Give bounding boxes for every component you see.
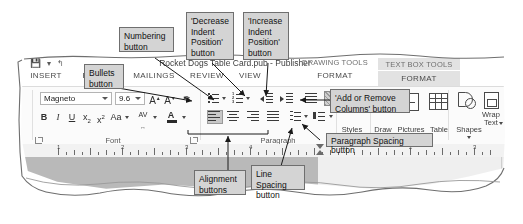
chevron-down-icon[interactable]: [467, 136, 471, 139]
numbering-icon[interactable]: 1 2 3: [232, 93, 243, 102]
alignment-buttons-callout: Alignment buttons: [194, 170, 246, 195]
increase-indent-position-button-callout: 'Increase Indent Position' button: [243, 12, 289, 60]
chevron-down-icon[interactable]: [125, 116, 129, 119]
chevron-down-icon[interactable]: [182, 116, 186, 119]
bullets-button-callout: Bullets button: [84, 64, 124, 89]
chevron-down-icon[interactable]: [222, 97, 226, 100]
numbering-button-callout: Numbering button: [119, 27, 174, 52]
paragraph-spacing-button-callout: Paragraph Spacing button: [326, 133, 433, 147]
chevron-down-icon[interactable]: [135, 97, 141, 100]
chevron-down-icon[interactable]: [329, 115, 333, 118]
tab-mailings[interactable]: MAILINGS: [128, 71, 180, 80]
decrease-indent-position-button-callout: 'Decrease Indent Position' button: [186, 12, 234, 60]
ruler-number: 1: [57, 144, 60, 150]
font-dialog-launcher[interactable]: [35, 137, 42, 144]
drawing-tools-group-label: DRAWING TOOLS: [296, 58, 374, 67]
wrap-text-icon[interactable]: [484, 92, 499, 109]
font-size-combo[interactable]: 9.6: [115, 92, 145, 105]
group-separator: [32, 90, 33, 140]
ruler-number: 3: [473, 144, 476, 150]
decrease-indent-icon[interactable]: [260, 93, 273, 103]
horizontal-ruler[interactable]: 1 2 3 4 1 2 3: [18, 144, 508, 158]
chevron-down-icon[interactable]: [499, 122, 503, 125]
character-spacing-icon[interactable]: AV↔: [136, 109, 150, 133]
chevron-down-icon[interactable]: [304, 115, 308, 118]
font-name-value: Magneto: [44, 94, 75, 103]
change-case-icon[interactable]: Aa: [110, 111, 122, 123]
align-left-icon[interactable]: [207, 110, 223, 124]
grow-font-icon[interactable]: A▲: [149, 92, 161, 107]
ribbon-body: Magneto 9.6 A▲ A▼ ✒ B I U x2 x2 Aa AV↔: [18, 86, 508, 146]
add-or-remove-columns-button-callout: 'Add or Remove Columns' button: [330, 89, 410, 113]
tab-text-box-tools-format[interactable]: FORMAT: [378, 71, 460, 86]
shrink-font-icon[interactable]: A▼: [164, 92, 176, 107]
save-icon[interactable]: 💾: [30, 58, 43, 68]
subscript-icon[interactable]: x2: [82, 111, 92, 127]
clear-formatting-icon[interactable]: ✒: [181, 92, 193, 104]
table-icon[interactable]: [429, 93, 448, 110]
font-size-value: 9.6: [119, 94, 130, 103]
align-justify-icon[interactable]: [267, 111, 279, 121]
chevron-down-icon[interactable]: [102, 97, 108, 100]
line-spacing-button-callout: Line Spacing button: [251, 165, 305, 190]
ruler-number: 3: [185, 144, 188, 150]
font-color-icon[interactable]: A: [165, 109, 177, 121]
quick-access-controls[interactable]: ▾ ↰: [47, 59, 66, 68]
tab-view[interactable]: VIEW: [232, 71, 268, 80]
bold-icon[interactable]: B: [40, 111, 48, 123]
chevron-down-icon[interactable]: [246, 97, 250, 100]
superscript-icon[interactable]: x2: [96, 111, 106, 126]
italic-icon[interactable]: I: [54, 111, 62, 123]
line-spacing-icon[interactable]: [290, 111, 301, 120]
ruler-number: 4: [249, 144, 252, 150]
tab-insert[interactable]: INSERT: [26, 71, 66, 80]
font-name-combo[interactable]: Magneto: [40, 92, 112, 105]
underline-icon[interactable]: U: [68, 111, 76, 123]
vertical-scrollbar[interactable]: [501, 157, 508, 190]
first-line-indent-marker[interactable]: [316, 144, 324, 149]
paragraph-spacing-icon[interactable]: [314, 111, 325, 120]
annotated-screenshot-figure: 💾 ▾ ↰ Rocket Dogs Table Card.pub - Publi…: [0, 0, 523, 224]
shapes-icon[interactable]: [458, 92, 476, 108]
quick-access-toolbar[interactable]: 💾 ▾ ↰: [30, 58, 66, 68]
bullets-icon[interactable]: [208, 93, 219, 102]
ruler-number: 2: [121, 144, 124, 150]
tab-drawing-tools-format[interactable]: FORMAT: [296, 71, 374, 80]
chevron-down-icon[interactable]: [153, 116, 157, 119]
hanging-indent-marker[interactable]: [316, 150, 324, 155]
add-remove-columns-icon[interactable]: [305, 93, 317, 102]
tab-review[interactable]: REVIEW: [186, 71, 228, 80]
page-area[interactable]: [318, 157, 508, 190]
font-dialog-launcher-right[interactable]: [190, 137, 197, 144]
group-separator: [200, 90, 201, 140]
align-center-icon[interactable]: [227, 111, 239, 121]
align-right-icon[interactable]: [247, 111, 259, 121]
increase-indent-icon[interactable]: [280, 93, 293, 103]
